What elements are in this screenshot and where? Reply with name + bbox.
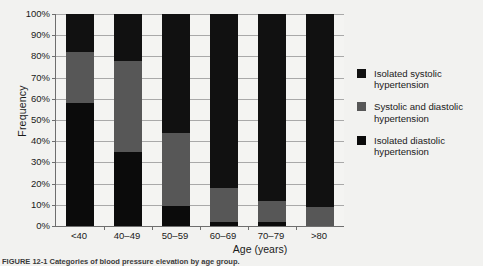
y-axis-tick-mark	[52, 141, 56, 142]
y-axis-tick-label: 50%	[14, 115, 50, 125]
bar-segment	[258, 222, 286, 226]
gridline	[56, 184, 344, 185]
gridline	[56, 35, 344, 36]
x-axis-title: Age (years)	[185, 243, 335, 255]
y-axis-tick-mark	[52, 78, 56, 79]
legend-label-cont: hypertension	[374, 79, 481, 90]
bar-segment	[66, 14, 94, 52]
bar-70-79[interactable]	[258, 14, 286, 226]
bar-lt40[interactable]	[66, 14, 94, 226]
bar-segment	[66, 103, 94, 226]
x-axis-tick-label: >80	[291, 230, 347, 241]
bar-segment	[306, 207, 334, 226]
y-axis-tick-mark	[52, 14, 56, 15]
chart-legend: Isolated systolichypertensionSystolic an…	[357, 68, 481, 168]
x-axis-tick-labels: <4040–4950–5960–6970–79>80	[55, 230, 343, 244]
bar-segment	[210, 188, 238, 222]
bar-segment	[162, 206, 190, 226]
figure-caption: FIGURE 12-1 Categories of blood pressure…	[2, 258, 481, 266]
legend-label-cont: hypertension	[374, 146, 481, 157]
legend-label: Systolic and diastolic	[374, 101, 481, 112]
legend-label: Isolated diastolic	[374, 135, 481, 146]
y-axis-tick-mark	[52, 184, 56, 185]
bar-gt80[interactable]	[306, 14, 334, 226]
bar-segment	[258, 14, 286, 201]
bar-segment	[162, 133, 190, 206]
legend-item[interactable]: Isolated diastolichypertension	[357, 135, 481, 157]
y-axis-tick-mark	[52, 120, 56, 121]
bar-segment	[162, 14, 190, 133]
y-axis-tick-label: 100%	[14, 9, 50, 19]
gridline	[56, 78, 344, 79]
bar-segment	[210, 14, 238, 188]
y-axis-tick-label: 0%	[14, 221, 50, 231]
bar-segment	[114, 14, 142, 61]
bar-40-49[interactable]	[114, 14, 142, 226]
legend-label-cont: hypertension	[374, 113, 481, 124]
bar-segment	[258, 201, 286, 222]
gridline	[56, 120, 344, 121]
gridline	[56, 14, 344, 15]
y-axis-tick-mark	[52, 205, 56, 206]
gridline	[56, 56, 344, 57]
bar-segment	[210, 222, 238, 226]
bar-segment	[114, 61, 142, 152]
gridline	[56, 99, 344, 100]
y-axis-tick-label: 10%	[14, 200, 50, 210]
y-axis-tick-label: 90%	[14, 30, 50, 40]
gridline	[56, 162, 344, 163]
figure-stacked-bar-chart: Frequency 0%10%20%30%40%50%60%70%80%90%1…	[0, 0, 483, 266]
bar-60-69[interactable]	[210, 14, 238, 226]
legend-item[interactable]: Systolic and diastolichypertension	[357, 101, 481, 123]
gridline	[56, 141, 344, 142]
y-axis-tick-mark	[52, 56, 56, 57]
legend-swatch-icon	[357, 136, 366, 145]
legend-label: Isolated systolic	[374, 68, 481, 79]
y-axis-tick-mark	[52, 226, 56, 227]
bar-segment	[66, 52, 94, 103]
bar-segment	[306, 14, 334, 207]
plot-area	[55, 14, 344, 227]
y-axis-tick-labels: 0%10%20%30%40%50%60%70%80%90%100%	[14, 14, 50, 226]
legend-item[interactable]: Isolated systolichypertension	[357, 68, 481, 90]
y-axis-tick-mark	[52, 162, 56, 163]
y-axis-tick-mark	[52, 99, 56, 100]
legend-swatch-icon	[357, 69, 366, 78]
bar-segment	[114, 152, 142, 226]
gridline	[56, 205, 344, 206]
y-axis-tick-label: 80%	[14, 52, 50, 62]
y-axis-tick-label: 40%	[14, 136, 50, 146]
y-axis-tick-mark	[52, 35, 56, 36]
bar-50-59[interactable]	[162, 14, 190, 226]
y-axis-tick-label: 60%	[14, 94, 50, 104]
y-axis-tick-label: 30%	[14, 158, 50, 168]
y-axis-tick-label: 20%	[14, 179, 50, 189]
y-axis-tick-label: 70%	[14, 73, 50, 83]
legend-swatch-icon	[357, 102, 366, 111]
